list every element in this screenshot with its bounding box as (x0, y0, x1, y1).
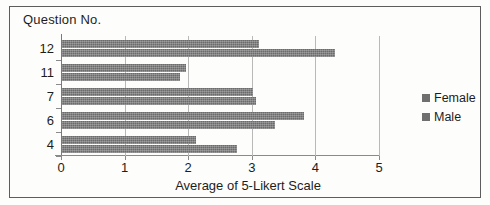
x-axis-tick-label: 5 (375, 160, 382, 175)
y-axis-category-label: 4 (47, 138, 54, 151)
x-axis-tick-label: 4 (312, 160, 319, 175)
y-axis-title: Question No. (23, 12, 101, 27)
gridline (379, 36, 380, 156)
x-axis-tick-label: 2 (185, 160, 192, 175)
bar-female-q11 (62, 64, 186, 72)
legend-swatch-icon (422, 94, 430, 102)
bar-female-q6 (62, 112, 304, 120)
bar-group: 7 (61, 84, 379, 108)
legend-swatch-icon (422, 113, 430, 121)
x-axis-tick-label: 1 (121, 160, 128, 175)
legend-item-female: Female (422, 91, 476, 105)
bar-male-q6 (62, 121, 275, 129)
legend-label: Female (434, 91, 476, 105)
x-axis-tick-label: 0 (57, 160, 64, 175)
bar-male-q12 (62, 49, 335, 57)
bar-female-q12 (62, 40, 259, 48)
bar-female-q4 (62, 136, 196, 144)
y-axis-category-label: 7 (47, 90, 54, 103)
bar-male-q11 (62, 73, 180, 81)
bar-female-q7 (62, 88, 253, 96)
legend-item-male: Male (422, 110, 476, 124)
chart-legend: FemaleMale (422, 91, 476, 129)
x-axis-title: Average of 5-Likert Scale (175, 178, 321, 193)
bar-male-q4 (62, 145, 237, 153)
bar-group: 12 (61, 36, 379, 60)
x-axis-tick-label: 3 (248, 160, 255, 175)
y-axis-category-label: 11 (41, 66, 55, 79)
bar-male-q7 (62, 97, 256, 105)
y-axis-category-label: 6 (47, 114, 54, 127)
legend-label: Male (434, 110, 461, 124)
bar-group: 4 (61, 132, 379, 156)
bar-group: 6 (61, 108, 379, 132)
bar-group: 11 (61, 60, 379, 84)
chart-figure: Question No. 1211764 012345 Average of 5… (0, 0, 490, 205)
plot-area: 1211764 012345 Average of 5-Likert Scale (61, 36, 379, 156)
y-axis-tick (56, 156, 61, 157)
y-axis-category-label: 12 (40, 42, 54, 55)
